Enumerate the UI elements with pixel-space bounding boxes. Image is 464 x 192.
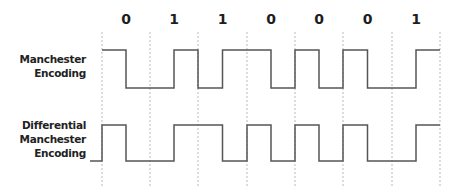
diff-manchester-label-line2: Manchester: [20, 133, 88, 145]
diff-manchester-label-line3: Encoding: [34, 147, 86, 159]
bit-label: 0: [363, 11, 373, 27]
bit-label: 0: [266, 11, 276, 27]
bit-label: 1: [169, 11, 179, 27]
manchester-label-line1: Manchester: [20, 53, 88, 65]
bit-label: 1: [218, 11, 228, 27]
manchester-label-line2: Encoding: [34, 67, 86, 79]
differential-manchester-waveform: [90, 125, 440, 161]
diff-manchester-label-line1: Differential: [22, 119, 86, 131]
encoding-diagram: 0110001 Manchester Encoding Differential…: [0, 0, 464, 192]
bit-label: 0: [314, 11, 324, 27]
bit-label: 1: [411, 11, 421, 27]
manchester-waveform: [102, 50, 440, 88]
bit-labels: 0110001: [121, 11, 421, 27]
bit-label: 0: [121, 11, 131, 27]
